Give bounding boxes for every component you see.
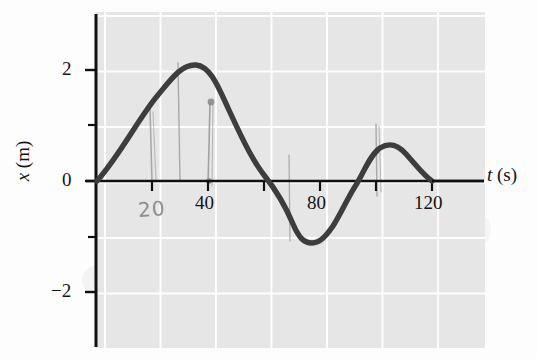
y-tick-label-0: 0 — [62, 169, 72, 191]
x-axis-title: t (s) — [487, 164, 517, 186]
figure-page: 2 0 −2 20 40 80 120 t (s) x (m) — [0, 0, 537, 359]
pencil-vline-t40-b — [212, 104, 213, 186]
x-tick-label-40: 40 — [195, 192, 214, 214]
pencil-vline-t20-b — [153, 112, 156, 182]
x-tick-label-80: 80 — [307, 192, 326, 214]
x-axis-unit: (s) — [497, 164, 517, 185]
pencil-dot-t40-curve — [208, 99, 215, 106]
pencil-vline-trough — [289, 155, 290, 241]
pencil-vline-t30 — [178, 63, 180, 181]
y-axis-variable: x — [12, 173, 33, 181]
y-tick-label-2: 2 — [62, 58, 72, 80]
y-axis-unit: (m) — [12, 141, 33, 168]
x-tick-label-20-handwritten: 20 — [137, 196, 166, 222]
plot-vector-layer — [0, 0, 537, 359]
y-axis-title: x (m) — [12, 116, 34, 206]
pencil-vline-t40 — [208, 102, 210, 186]
axes-layer — [85, 14, 484, 347]
x-tick-label-120: 120 — [414, 192, 443, 214]
pencil-vline-t20 — [150, 108, 152, 182]
y-tick-label-minus2: −2 — [51, 280, 71, 302]
